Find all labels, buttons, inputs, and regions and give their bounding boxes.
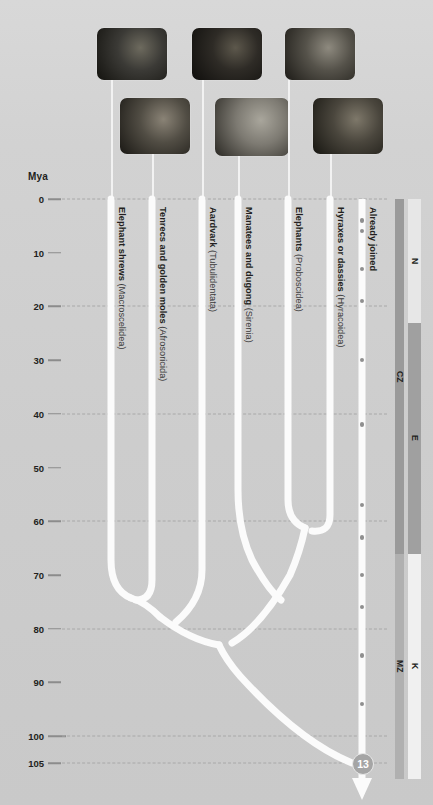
period-column-label-N: N [408, 199, 421, 323]
taxon-label-3: Manatees and dugong (Sirenia) [244, 207, 253, 343]
era-column-label-CZ: CZ [395, 199, 404, 554]
branch-root-stem [219, 645, 352, 763]
taxon-order-name: (Proboscidea) [294, 251, 304, 311]
taxon-order-name: (Hyracoidea) [336, 292, 346, 348]
period-column-label-K: K [408, 554, 421, 780]
taxon-common-name: Aardvark [208, 207, 218, 247]
taxon-order-name: (Tubulidentata) [208, 247, 218, 312]
taxon-label-5: Hyraxes or dassies (Hyracoidea) [336, 207, 345, 348]
taxon-label-2: Aardvark (Tubulidentata) [208, 207, 217, 312]
branch-afroinsectiphilia-stem [160, 617, 219, 645]
era-column-label-MZ: MZ [395, 554, 404, 780]
taxon-label-1: Tenrecs and golden moles (Afrosoricida) [158, 207, 167, 381]
phylogenetic-tree [0, 0, 433, 805]
taxon-order-name: (Macroscelidea) [117, 281, 127, 350]
already-joined-dot [360, 535, 365, 540]
era-column: CZMZ [395, 199, 404, 779]
branch-tubulidentata [176, 199, 202, 622]
era-column-band-CZ: CZ [395, 199, 404, 554]
taxon-order-name: (Sirenia) [244, 305, 254, 343]
period-column: NEK [408, 199, 421, 779]
era-column-band-MZ: MZ [395, 554, 404, 780]
already-joined-dot [360, 422, 365, 427]
period-column-band-N: N [408, 199, 421, 323]
taxon-common-name: Hyraxes or dassies [336, 207, 346, 292]
period-column-band-K: K [408, 554, 421, 780]
period-column-band-E: E [408, 323, 421, 554]
already-joined-arrow [352, 199, 372, 800]
already-joined-dot [360, 653, 365, 658]
taxon-label-4: Elephants (Proboscidea) [294, 207, 303, 312]
taxon-common-name: Elephants [294, 207, 304, 251]
branch-node-afroinsectivora [131, 598, 160, 617]
taxon-common-name: Tenrecs and golden moles [158, 207, 168, 324]
taxon-label-0: Elephant shrews (Macroscelidea) [117, 207, 126, 350]
taxon-common-name: Elephant shrews [117, 207, 127, 281]
branch-afrosoricida [136, 199, 152, 600]
period-column-label-E: E [408, 323, 421, 554]
taxon-common-name: Manatees and dugong [244, 207, 254, 305]
already-joined-label: Already joined [368, 207, 378, 271]
root-node-badge[interactable]: 13 [352, 753, 374, 775]
phylogeny-figure: Mya 0102030405060708090100105 [0, 0, 433, 805]
taxon-order-name: (Afrosoricida) [158, 324, 168, 382]
branch-hyracoidea [312, 199, 330, 531]
already-joined-dot [360, 218, 365, 223]
